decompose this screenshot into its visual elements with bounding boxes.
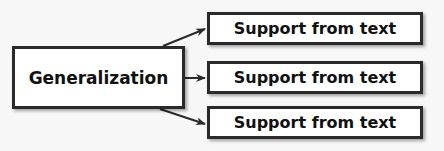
generalization-label: Generalization: [29, 68, 169, 88]
support-node-2: Support from text: [207, 61, 423, 94]
arrow-to-support-3: [160, 109, 205, 124]
support-node-3: Support from text: [207, 106, 423, 139]
support-label-3: Support from text: [234, 113, 396, 132]
generalization-node: Generalization: [12, 46, 185, 109]
support-node-1: Support from text: [207, 12, 423, 45]
arrow-to-support-1: [163, 29, 205, 46]
support-label-1: Support from text: [234, 19, 396, 38]
support-label-2: Support from text: [234, 68, 396, 87]
